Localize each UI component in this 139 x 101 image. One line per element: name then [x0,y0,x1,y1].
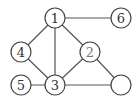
edges [21,18,121,85]
graph-diagram: 1 6 4 2 5 3 [0,0,139,101]
node-label: 5 [17,78,25,93]
node-label: 2 [86,45,94,60]
nodes: 1 6 4 2 5 3 [11,8,131,95]
node-5: 5 [11,75,31,95]
node-label: 4 [17,45,25,60]
node-2: 2 [80,42,100,62]
node-6: 6 [111,8,131,28]
node-label: 3 [51,78,59,93]
node-4: 4 [11,42,31,62]
node-1: 1 [45,8,65,28]
node-label: 1 [51,11,59,26]
node-empty [111,75,131,95]
node-label: 6 [117,11,125,26]
node-3: 3 [45,75,65,95]
